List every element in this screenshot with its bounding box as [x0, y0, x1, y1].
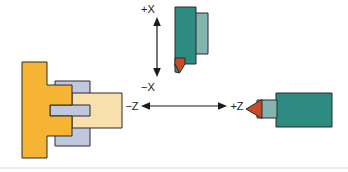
turning-tool	[246, 93, 332, 127]
z-axis-group: −Z +Z	[125, 100, 243, 112]
turning-tool-body	[276, 93, 332, 127]
chuck-workpiece-assembly	[22, 62, 122, 158]
facing-tool-body	[175, 7, 196, 64]
chuck-jaw-middle	[50, 105, 90, 116]
z-axis-negative-label: −Z	[125, 100, 138, 112]
x-axis-positive-label: +X	[141, 3, 155, 15]
diagram-canvas: +X −X −Z +Z	[0, 0, 348, 172]
z-axis-positive-arrowhead	[218, 102, 227, 110]
x-axis-negative-arrowhead	[153, 68, 161, 77]
z-axis-negative-arrowhead	[141, 102, 150, 110]
facing-tool	[175, 7, 208, 73]
x-axis-positive-arrowhead	[153, 17, 161, 26]
turning-tool-insert-tip	[246, 100, 262, 119]
x-axis-group: +X −X	[141, 3, 161, 93]
z-axis-positive-label: +Z	[230, 100, 243, 112]
lathe-axis-diagram: +X −X −Z +Z	[0, 0, 348, 172]
x-axis-negative-label: −X	[141, 81, 155, 93]
